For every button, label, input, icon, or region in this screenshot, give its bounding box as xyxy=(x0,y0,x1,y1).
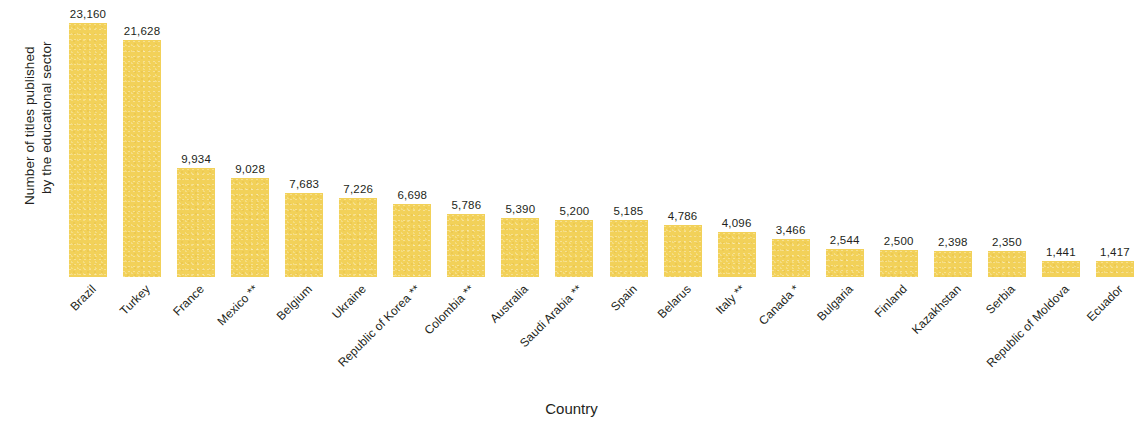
x-axis-tick-label-text: Serbia xyxy=(983,282,1018,317)
bar[interactable] xyxy=(447,214,485,277)
bar[interactable] xyxy=(285,193,323,277)
x-axis-tick-label: Finland xyxy=(873,279,927,399)
x-axis-category-labels: BrazilTurkeyFranceMexico **BelgiumUkrain… xyxy=(62,279,1143,399)
x-axis-tick-label-text: Finland xyxy=(871,282,909,320)
bar-chart: Number of titles published by the educat… xyxy=(0,0,1143,435)
bar-group: 21,628 xyxy=(116,0,170,277)
x-axis-tick-label: France xyxy=(170,279,224,399)
bar-group: 7,226 xyxy=(332,0,386,277)
bar[interactable] xyxy=(826,249,864,277)
x-axis-tick-label: Bulgaria xyxy=(819,279,873,399)
bar[interactable] xyxy=(718,232,756,277)
x-axis-tick-label-text: Australia xyxy=(488,282,532,326)
x-axis-tick-label: Ecuador xyxy=(1089,279,1143,399)
bar-value-label: 21,628 xyxy=(106,25,178,37)
x-axis-tick-label-text: Italy ** xyxy=(713,282,748,317)
x-axis-tick-label: Italy ** xyxy=(711,279,765,399)
y-axis-title: Number of titles published by the educat… xyxy=(0,0,58,280)
bar-group: 1,441 xyxy=(1035,0,1089,277)
bar-group: 9,934 xyxy=(170,0,224,277)
plot-area: 23,16021,6289,9349,0287,6837,2266,6985,7… xyxy=(62,0,1143,277)
x-axis-tick-label-text: Spain xyxy=(607,282,639,314)
bar-group: 4,786 xyxy=(657,0,711,277)
x-axis-tick-label-text: Brazil xyxy=(67,282,99,314)
bar[interactable] xyxy=(772,239,810,277)
bar-group: 1,417 xyxy=(1089,0,1143,277)
bar[interactable] xyxy=(339,198,377,277)
x-axis-tick-label: Spain xyxy=(603,279,657,399)
bar[interactable] xyxy=(123,40,161,277)
x-axis-tick-label-text: Belarus xyxy=(654,282,693,321)
x-axis-tick-label: Saudi Arabia ** xyxy=(548,279,602,399)
y-axis-title-line1: Number of titles published xyxy=(22,46,38,205)
bar[interactable] xyxy=(664,225,702,277)
bar-group: 2,350 xyxy=(981,0,1035,277)
x-axis-tick-label: Colombia ** xyxy=(440,279,494,399)
bar[interactable] xyxy=(501,218,539,277)
bar-group: 5,200 xyxy=(548,0,602,277)
bar-group: 23,160 xyxy=(62,0,116,277)
bar-group: 6,698 xyxy=(386,0,440,277)
bar-group: 9,028 xyxy=(224,0,278,277)
bar[interactable] xyxy=(555,220,593,277)
bar[interactable] xyxy=(177,168,215,277)
bar[interactable] xyxy=(69,23,107,277)
x-axis-tick-label: Belgium xyxy=(278,279,332,399)
bar-group: 7,683 xyxy=(278,0,332,277)
bar-group: 5,786 xyxy=(440,0,494,277)
x-axis-tick-label-text: Bulgaria xyxy=(814,282,856,324)
x-axis-tick-label: Turkey xyxy=(116,279,170,399)
bar-value-label: 23,160 xyxy=(52,8,124,20)
x-axis-tick-label-text: Belgium xyxy=(274,282,315,323)
x-axis-tick-label: Republic of Korea ** xyxy=(386,279,440,399)
bar[interactable] xyxy=(988,251,1026,277)
bar-group: 5,390 xyxy=(494,0,548,277)
bar-value-label: 1,417 xyxy=(1079,246,1143,258)
bar[interactable] xyxy=(1096,261,1134,277)
x-axis-tick-label: Belarus xyxy=(657,279,711,399)
x-axis-tick-label-text: Ecuador xyxy=(1084,282,1126,324)
x-axis-tick-label: Canada * xyxy=(765,279,819,399)
bar-group: 5,185 xyxy=(603,0,657,277)
y-axis-title-line2: by the educational sector xyxy=(39,41,55,194)
x-axis-tick-label-text: France xyxy=(170,282,207,319)
x-axis-tick-label-text: Ukraine xyxy=(330,282,370,322)
x-axis-tick-label: Brazil xyxy=(62,279,116,399)
bar[interactable] xyxy=(393,204,431,277)
bar[interactable] xyxy=(1042,261,1080,277)
x-axis-tick-label-text: Turkey xyxy=(117,282,153,318)
bar[interactable] xyxy=(610,220,648,277)
x-axis-tick-label: Republic of Moldova xyxy=(1035,279,1089,399)
bar[interactable] xyxy=(934,251,972,277)
x-axis-title: Country xyxy=(0,400,1143,417)
x-axis-tick-label: Kazakhstan xyxy=(927,279,981,399)
x-axis-tick-label: Mexico ** xyxy=(224,279,278,399)
bar[interactable] xyxy=(880,250,918,277)
bar[interactable] xyxy=(231,178,269,277)
bar-value-label: 9,028 xyxy=(214,163,286,175)
